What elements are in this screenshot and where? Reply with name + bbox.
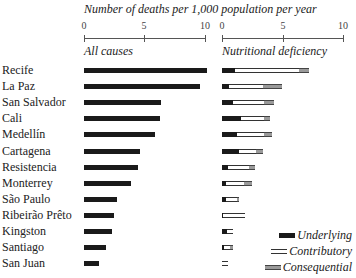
row-label: Resistencia bbox=[2, 160, 57, 174]
all-causes-bar bbox=[84, 132, 155, 137]
row-label: San Salvador bbox=[2, 95, 66, 109]
row-label: Medellín bbox=[2, 127, 45, 141]
contributory-segment bbox=[235, 68, 299, 73]
row-label: São Paulo bbox=[2, 192, 50, 206]
contributory-segment bbox=[228, 165, 249, 170]
right-axis-tick bbox=[283, 35, 284, 42]
consequential-segment bbox=[263, 84, 282, 89]
contributory-segment bbox=[229, 84, 263, 89]
all-causes-bar bbox=[84, 116, 160, 121]
left-axis-tick bbox=[144, 35, 145, 42]
consequential-segment bbox=[264, 116, 270, 121]
contributory-segment bbox=[227, 229, 233, 234]
underlying-swatch-icon bbox=[279, 233, 295, 238]
all-causes-bar bbox=[84, 165, 138, 170]
all-causes-bar bbox=[84, 229, 112, 234]
right-axis-tick bbox=[343, 35, 344, 42]
right-tick-10: 10 bbox=[338, 20, 348, 31]
row-label: Cali bbox=[2, 111, 22, 125]
all-causes-bar bbox=[84, 245, 106, 250]
row-label: Kingston bbox=[2, 224, 46, 238]
left-axis-tick bbox=[84, 35, 85, 42]
row-label: Cartagena bbox=[2, 144, 51, 158]
contributory-segment bbox=[226, 197, 237, 202]
row-label: Santiago bbox=[2, 240, 44, 254]
underlying-segment bbox=[222, 132, 237, 137]
left-tick-10: 10 bbox=[200, 20, 210, 31]
all-causes-bar bbox=[84, 261, 99, 266]
underlying-segment bbox=[222, 149, 239, 154]
contributory-segment bbox=[237, 132, 265, 137]
consequential-segment bbox=[249, 165, 255, 170]
legend-label: Consequential bbox=[283, 260, 352, 275]
legend-label: Underlying bbox=[297, 228, 352, 243]
contributory-segment bbox=[239, 149, 256, 154]
left-panel-title: All causes bbox=[84, 44, 133, 59]
consequential-segment bbox=[244, 181, 252, 186]
underlying-segment bbox=[222, 116, 241, 121]
row-label: Recife bbox=[2, 63, 33, 77]
all-causes-bar bbox=[84, 100, 161, 105]
left-tick-0: 0 bbox=[82, 20, 87, 31]
all-causes-bar bbox=[84, 197, 117, 202]
legend-item-underlying: Underlying bbox=[265, 227, 352, 243]
contributory-segment bbox=[226, 181, 244, 186]
all-causes-bar bbox=[84, 84, 200, 89]
legend-item-contributory: Contributory bbox=[265, 243, 352, 259]
underlying-segment bbox=[222, 68, 235, 73]
chart-title: Number of deaths per 1,000 population pe… bbox=[84, 2, 317, 17]
contributory-segment bbox=[223, 213, 245, 218]
right-tick-0: 0 bbox=[220, 20, 225, 31]
row-label: Ribeirão Prêto bbox=[2, 208, 72, 222]
contributory-swatch-icon bbox=[271, 249, 287, 254]
consequential-swatch-icon bbox=[265, 265, 281, 270]
contributory-segment bbox=[241, 116, 264, 121]
consequential-segment bbox=[237, 197, 239, 202]
all-causes-bar bbox=[84, 68, 207, 73]
contributory-segment bbox=[222, 261, 228, 266]
row-label: Monterrey bbox=[2, 176, 53, 190]
all-causes-bar bbox=[84, 149, 140, 154]
legend-item-consequential: Consequential bbox=[265, 259, 352, 275]
row-label: La Paz bbox=[2, 79, 35, 93]
contributory-segment bbox=[233, 100, 264, 105]
left-tick-5: 5 bbox=[142, 20, 147, 31]
right-panel-title: Nutritional deficiency bbox=[222, 44, 327, 59]
row-label: San Juan bbox=[2, 256, 45, 270]
consequential-segment bbox=[299, 68, 309, 73]
consequential-segment bbox=[256, 149, 263, 154]
underlying-segment bbox=[222, 84, 229, 89]
consequential-segment bbox=[264, 132, 271, 137]
all-causes-bar bbox=[84, 181, 131, 186]
right-axis-tick bbox=[222, 35, 223, 42]
consequential-segment bbox=[264, 100, 274, 105]
left-axis-tick bbox=[205, 35, 206, 42]
consequential-segment bbox=[230, 245, 232, 250]
right-tick-5: 5 bbox=[281, 20, 286, 31]
underlying-segment bbox=[222, 100, 233, 105]
legend-label: Contributory bbox=[289, 244, 352, 259]
all-causes-bar bbox=[84, 213, 114, 218]
legend: Underlying Contributory Consequential bbox=[265, 227, 352, 275]
